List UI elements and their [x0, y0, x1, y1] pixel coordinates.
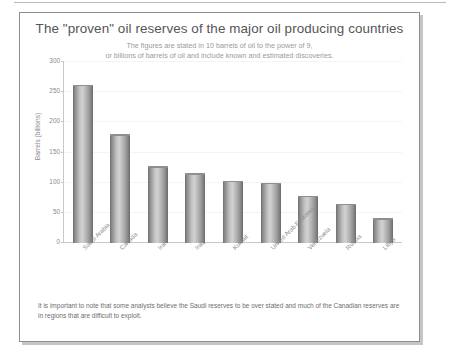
bar	[223, 181, 243, 243]
bar-body	[148, 166, 168, 243]
y-tick-label: 150	[32, 148, 60, 155]
bar-series	[64, 62, 402, 243]
plot-area: Barrels (billions) 050100150200250300 Sa…	[20, 13, 421, 343]
bar-top-cap	[223, 181, 243, 183]
bar-top-cap	[336, 204, 356, 206]
bar-body	[223, 181, 243, 243]
bar-body	[185, 173, 205, 243]
bar-top-cap	[148, 166, 168, 168]
y-tick-label: 250	[32, 87, 60, 94]
bar	[148, 166, 168, 243]
chart-caption: It is important to note that some analys…	[38, 301, 402, 321]
bar	[261, 183, 281, 243]
bar-top-cap	[261, 183, 281, 185]
bar-top-cap	[185, 173, 205, 175]
bar-body	[110, 134, 130, 243]
bar-top-cap	[110, 134, 130, 136]
y-tick-label: 100	[32, 178, 60, 185]
bar	[110, 134, 130, 243]
y-axis-title: Barrels (billions)	[34, 92, 41, 182]
y-tick-label: 50	[32, 208, 60, 215]
bar	[185, 173, 205, 243]
bar-top-cap	[73, 85, 93, 87]
y-tick-label: 300	[32, 57, 60, 64]
chart-panel: The "proven" oil reserves of the major o…	[19, 12, 420, 342]
bar	[73, 85, 93, 243]
bar-body	[73, 85, 93, 243]
bar-top-cap	[373, 218, 393, 220]
y-tick-label: 200	[32, 117, 60, 124]
bar-top-cap	[298, 196, 318, 198]
bar-body	[261, 183, 281, 243]
y-tick-label: 0	[32, 238, 60, 245]
page-top-rule	[14, 2, 446, 3]
